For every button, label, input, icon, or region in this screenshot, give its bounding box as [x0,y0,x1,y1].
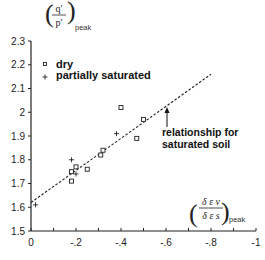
scatter-chart: 1.51.61.71.81.922.12.22.3 0-.2-.4-.6-.8-… [0,0,265,260]
legend-plus-marker-icon [43,75,48,80]
y-tick-label: 2 [19,107,25,118]
square-marker-icon [119,106,123,110]
x-tick-label: 0 [28,237,34,248]
y-tick-label: 1.5 [11,226,25,237]
x-tick-label: -.8 [205,237,217,248]
svg-text:p': p' [56,17,63,28]
square-marker-icon [70,170,74,174]
y-tick-label: 1.7 [11,178,25,189]
y-tick-label: 2.1 [11,83,25,94]
y-tick-label: 2.3 [11,36,25,47]
legend-square-marker-icon [44,63,47,66]
y-axis-label: ( ) q' p' peak [45,0,92,32]
arrow-up-icon [165,107,170,127]
x-tick-label: -.6 [160,237,172,248]
y-tick-label: 1.6 [11,202,25,213]
square-marker-icon [70,179,74,183]
y-tick-label: 2.2 [11,59,25,70]
x-tick-label: -.4 [115,237,127,248]
square-marker-icon [142,117,146,121]
svg-text:(: ( [45,0,54,28]
plus-marker-icon [69,157,74,162]
svg-text:peak: peak [75,23,92,32]
square-marker-icon [99,153,103,157]
svg-text:q': q' [56,3,63,14]
svg-text:saturated soil: saturated soil [162,138,230,150]
plus-marker-icon [114,131,119,136]
annotation: relationship for saturated soil [162,107,238,150]
x-axis-label: ( ) δ ε v δ ε s peak [189,196,246,228]
svg-text:peak: peak [229,215,246,224]
square-marker-icon [74,165,78,169]
y-tick-label: 1.8 [11,154,25,165]
y-tick-label: 1.9 [11,131,25,142]
square-marker-icon [85,167,89,171]
svg-text:): ) [67,0,76,25]
x-tick-label: -1 [252,237,261,248]
svg-text:(: ( [189,199,198,228]
data-points [33,106,146,208]
square-marker-icon [135,136,139,140]
legend-label-partially-saturated: partially saturated [56,69,151,81]
svg-text:δ ε v: δ ε v [202,196,221,207]
legend: dry partially saturated [43,58,151,81]
square-marker-icon [101,148,105,152]
svg-text:δ ε s: δ ε s [202,210,220,221]
plus-marker-icon [33,202,38,207]
x-tick-label: -.2 [70,237,82,248]
svg-text:relationship for: relationship for [162,126,238,138]
y-axis-ticks: 1.51.61.71.81.922.12.22.3 [11,36,31,237]
